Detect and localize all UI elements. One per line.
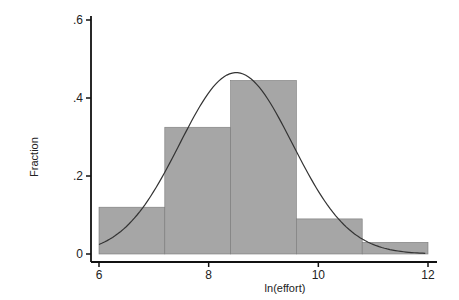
y-tick-label: .4 <box>73 91 83 105</box>
x-axis-title: ln(effort) <box>265 282 306 294</box>
x-tick-label: 6 <box>96 268 103 282</box>
histogram-bar <box>165 127 231 254</box>
y-tick-label: 0 <box>76 247 83 261</box>
x-axis: 681012 <box>91 262 437 282</box>
y-axis: 0.2.4.6 <box>73 13 91 262</box>
histogram-bar <box>231 80 297 254</box>
histogram-chart: 0.2.4.6 681012 Fraction ln(effort) <box>0 0 459 300</box>
y-tick-label: .2 <box>73 169 83 183</box>
x-tick-label: 10 <box>312 268 326 282</box>
y-tick-label: .6 <box>73 13 83 27</box>
histogram-bar <box>99 207 165 254</box>
histogram-bars <box>99 80 428 254</box>
histogram-bar <box>296 219 362 254</box>
x-tick-label: 8 <box>205 268 212 282</box>
x-tick-label: 12 <box>421 268 435 282</box>
y-axis-title: Fraction <box>28 137 40 177</box>
